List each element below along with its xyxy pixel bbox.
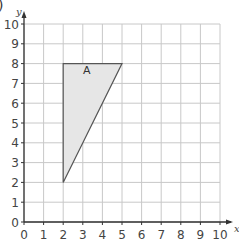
x-tick-label: 6 <box>138 228 146 242</box>
coordinate-grid-figure: ) A012345678910012345678910xy <box>0 0 239 244</box>
y-tick-label: 1 <box>11 196 19 210</box>
y-tick-label: 0 <box>11 216 19 230</box>
x-tick-label: 3 <box>79 228 87 242</box>
x-tick-label: 2 <box>59 228 67 242</box>
corner-label: ) <box>0 0 3 13</box>
x-tick-label: 9 <box>197 228 205 242</box>
y-tick-label: 3 <box>11 156 19 170</box>
y-tick-label: 8 <box>11 57 19 71</box>
y-tick-label: 6 <box>11 97 19 111</box>
x-tick-label: 7 <box>157 228 165 242</box>
y-axis-arrow-icon <box>22 11 27 18</box>
x-tick-label: 4 <box>99 228 107 242</box>
x-axis-arrow-icon <box>226 220 233 225</box>
y-tick-label: 9 <box>11 37 19 51</box>
y-axis-label: y <box>15 6 22 17</box>
y-tick-label: 5 <box>11 117 19 131</box>
x-tick-label: 5 <box>118 228 126 242</box>
x-axis-label: x <box>234 223 239 234</box>
y-tick-label: 10 <box>4 18 19 32</box>
coordinate-plane: A012345678910012345678910xy <box>0 0 239 244</box>
x-tick-label: 8 <box>177 228 185 242</box>
y-tick-label: 4 <box>11 136 19 150</box>
x-tick-label: 0 <box>20 228 28 242</box>
x-tick-label: 10 <box>212 228 227 242</box>
x-tick-label: 1 <box>40 228 48 242</box>
shape-label: A <box>83 64 91 77</box>
y-tick-label: 2 <box>11 176 19 190</box>
y-tick-label: 7 <box>11 77 19 91</box>
